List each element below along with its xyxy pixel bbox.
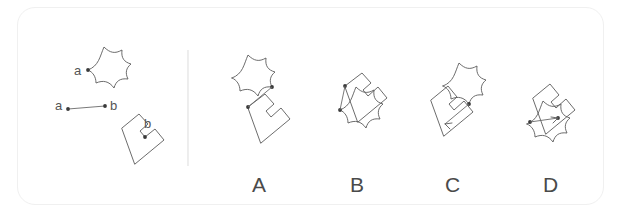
option-b-star-blob (340, 87, 383, 128)
option-label-c[interactable]: C (445, 174, 460, 195)
option-d-figure[interactable] (527, 84, 575, 142)
option-d-notched-square (533, 84, 575, 134)
option-c-figure[interactable] (431, 63, 486, 136)
label-a-on-blob: a (74, 64, 81, 77)
option-a-figure[interactable] (232, 55, 290, 143)
option-b-connector (340, 86, 345, 110)
reference-vector-end-dot (103, 104, 107, 108)
figure-canvas (0, 0, 620, 222)
option-label-d[interactable]: D (543, 174, 558, 195)
option-d-arrowhead (551, 117, 558, 123)
option-b-notched-square (345, 73, 387, 122)
option-b-figure[interactable] (338, 73, 387, 128)
prompt-notched-square-shape (122, 114, 164, 164)
option-label-b[interactable]: B (350, 174, 364, 195)
option-c-arrowhead (445, 123, 452, 129)
option-c-notched-square (431, 86, 473, 136)
option-d-connector (530, 118, 558, 122)
label-b-on-vector: b (110, 99, 117, 112)
prompt-blob-point-a (86, 68, 90, 72)
label-b-on-square: b (144, 117, 151, 130)
option-c-star-blob (443, 63, 486, 104)
option-label-a[interactable]: A (252, 174, 266, 195)
label-a-on-vector: a (55, 99, 62, 112)
reference-vector-start-dot (66, 107, 70, 111)
prompt-square-point-b (143, 135, 147, 139)
reference-vector-line (68, 106, 105, 109)
prompt-star-blob-shape (88, 47, 131, 88)
